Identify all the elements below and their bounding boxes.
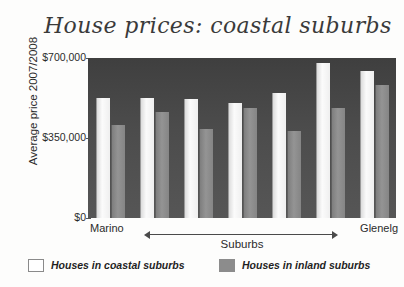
bar-inland (243, 108, 257, 218)
bars-layer (88, 58, 396, 218)
plot-area (88, 58, 396, 218)
y-axis-tick-mark (86, 218, 91, 219)
bar-coastal (96, 98, 110, 218)
y-axis-tick-label: $700,000 (14, 51, 86, 63)
bar-inland (199, 129, 213, 218)
y-axis-tick-label: $0 (14, 211, 86, 223)
legend-label-coastal: Houses in coastal suburbs (51, 259, 185, 271)
bar-inland (155, 112, 169, 218)
bar-group (220, 58, 264, 218)
legend-entry-coastal: Houses in coastal suburbs (28, 256, 185, 274)
bar-group (352, 58, 396, 218)
x-axis-right-end-label: Glenelg (360, 222, 398, 234)
legend-swatch-inland-icon (219, 259, 235, 272)
x-axis-title: Suburbs (88, 238, 396, 250)
bar-coastal (184, 99, 198, 218)
x-axis-left-end-label: Marino (90, 222, 124, 234)
bar-coastal (140, 98, 154, 218)
chart-title: House prices: coastal suburbs (44, 9, 374, 43)
bar-coastal (272, 93, 286, 218)
bar-group (176, 58, 220, 218)
bar-coastal (360, 71, 374, 218)
y-axis-tick-label: $350,000 (14, 131, 86, 143)
bar-coastal (228, 103, 242, 218)
chart-legend: Houses in coastal suburbs Houses in inla… (24, 256, 394, 276)
bar-group (308, 58, 352, 218)
legend-label-inland: Houses in inland suburbs (242, 259, 370, 271)
bar-inland (375, 85, 389, 218)
legend-entry-inland: Houses in inland suburbs (219, 256, 370, 274)
bar-chart-figure: House prices: coastal suburbs Average pr… (0, 0, 404, 287)
bar-coastal (316, 63, 330, 218)
y-axis-tick-labels: $0$350,000$700,000 (10, 0, 86, 287)
bar-group (264, 58, 308, 218)
bar-inland (287, 131, 301, 218)
bar-group (88, 58, 132, 218)
bar-inland (111, 125, 125, 218)
bar-group (132, 58, 176, 218)
legend-swatch-coastal-icon (28, 259, 44, 272)
bar-inland (331, 108, 345, 218)
